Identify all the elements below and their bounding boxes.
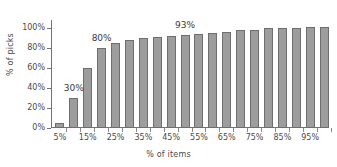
x-tick-mark	[192, 128, 193, 132]
bar	[194, 34, 203, 128]
x-tick-label: 75%	[246, 133, 264, 142]
bar	[153, 37, 162, 128]
x-tick-label: 55%	[190, 133, 208, 142]
bar	[181, 35, 190, 128]
bar	[264, 28, 273, 128]
y-tick-mark	[47, 48, 51, 49]
y-axis-tick: 20%	[51, 108, 52, 109]
bar	[83, 68, 92, 128]
plot-area: 0%20%40%60%80%100% 5%15%25%35%45%55%65%7…	[51, 20, 329, 128]
x-tick-mark	[247, 128, 248, 132]
x-tick-mark	[122, 128, 123, 132]
bar	[306, 27, 315, 128]
bar	[97, 48, 106, 128]
bar	[125, 40, 134, 128]
x-tick-label: 45%	[162, 133, 180, 142]
x-axis-title: % of items	[0, 150, 337, 159]
y-axis-tick: 100%	[51, 28, 52, 29]
x-tick-mark	[303, 128, 304, 132]
x-tick-mark	[150, 128, 151, 132]
y-tick-label: 0%	[32, 124, 45, 132]
x-tick-mark	[233, 128, 234, 132]
x-tick-mark	[66, 128, 67, 132]
bar	[208, 33, 217, 128]
bar	[236, 30, 245, 128]
x-tick-label: 35%	[134, 133, 152, 142]
x-tick-label: 5%	[54, 133, 67, 142]
y-axis-title: % of picks	[6, 23, 15, 87]
y-axis-tick: 60%	[51, 68, 52, 69]
bar-value-annotation: 30%	[64, 84, 84, 93]
x-tick-label: 25%	[107, 133, 125, 142]
y-tick-label: 40%	[27, 84, 45, 92]
y-axis-tick: 0%	[51, 128, 52, 129]
x-tick-mark	[317, 128, 318, 132]
x-tick-mark	[219, 128, 220, 132]
bar-value-annotation: 80%	[92, 34, 112, 43]
x-tick-mark	[94, 128, 95, 132]
bar	[222, 32, 231, 128]
bar	[139, 38, 148, 128]
x-tick-mark	[164, 128, 165, 132]
x-tick-mark	[275, 128, 276, 132]
x-tick-mark	[80, 128, 81, 132]
x-tick-mark	[136, 128, 137, 132]
x-axis-line	[51, 127, 329, 128]
y-tick-mark	[47, 88, 51, 89]
y-axis-line	[51, 20, 52, 128]
bar	[55, 123, 64, 128]
y-axis-tick: 40%	[51, 88, 52, 89]
y-tick-mark	[47, 68, 51, 69]
x-tick-label: 65%	[218, 133, 236, 142]
x-tick-mark	[331, 128, 332, 132]
y-tick-mark	[47, 28, 51, 29]
x-tick-mark	[108, 128, 109, 132]
bar	[320, 27, 329, 128]
x-tick-mark	[205, 128, 206, 132]
x-tick-mark	[289, 128, 290, 132]
bar	[69, 98, 78, 128]
x-tick-label: 95%	[301, 133, 319, 142]
y-tick-mark	[47, 128, 51, 129]
bar	[167, 36, 176, 128]
bar-chart: % of picks % of items 0%20%40%60%80%100%…	[0, 0, 337, 167]
y-tick-label: 60%	[27, 64, 45, 72]
y-axis-tick: 80%	[51, 48, 52, 49]
x-tick-mark	[178, 128, 179, 132]
bar	[111, 43, 120, 128]
bar	[292, 28, 301, 128]
y-tick-mark	[47, 108, 51, 109]
y-tick-label: 80%	[27, 44, 45, 52]
x-tick-label: 15%	[79, 133, 97, 142]
bar-value-annotation: 93%	[175, 21, 195, 30]
y-tick-label: 100%	[22, 24, 45, 32]
x-tick-mark	[261, 128, 262, 132]
bar	[250, 30, 259, 128]
x-tick-label: 85%	[273, 133, 291, 142]
bar	[278, 28, 287, 128]
y-tick-label: 20%	[27, 104, 45, 112]
